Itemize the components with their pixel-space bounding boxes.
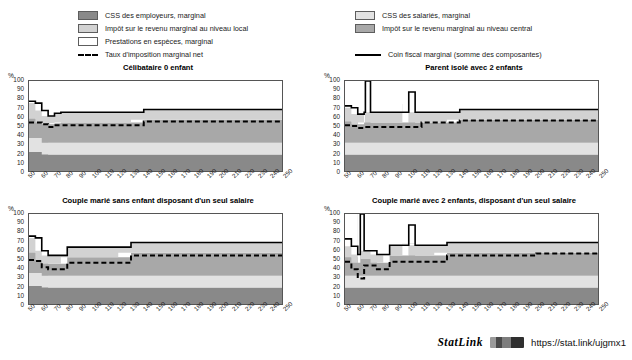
- y-axis-tick: 40: [17, 265, 24, 271]
- chart-legend: CSS des employeurs, marginal Impôt sur l…: [0, 10, 632, 66]
- y-axis-tick: 10: [17, 293, 24, 299]
- legend-solid-line-icon: [355, 54, 381, 56]
- chart-panel-celibataire-0-enfant: Célibataire 0 enfant%1009080706050403020…: [0, 62, 316, 198]
- y-axis-tick: 40: [333, 132, 340, 138]
- series-canvas: [29, 214, 283, 305]
- figure-root: CSS des employeurs, marginal Impôt sur l…: [0, 0, 632, 360]
- legend-swatch-central-tax: [355, 24, 375, 33]
- legend-dashed-line-icon: [78, 54, 98, 56]
- plot-frame: [344, 213, 599, 305]
- y-axis-tick: 30: [17, 274, 24, 280]
- area-band-0: [345, 288, 599, 305]
- legend-label-marginal-wedge: Coin fiscal marginal (somme des composan…: [388, 50, 542, 59]
- y-axis-tick: 90: [333, 86, 340, 92]
- y-axis-tick: 90: [17, 86, 24, 92]
- y-axis-tick: 10: [17, 160, 24, 166]
- x-axis-tick: 70: [53, 303, 62, 312]
- area-band-0: [29, 152, 283, 172]
- chart-panel-parent-isole-2-enfants: Parent isolé avec 2 enfants%100908070605…: [316, 62, 632, 198]
- statlink-url-link[interactable]: https://stat.link/ujgmx1: [531, 337, 626, 348]
- y-axis-tick: 80: [333, 95, 340, 101]
- legend-item-central-tax: Impôt sur le revenu marginal au niveau c…: [355, 23, 542, 34]
- statlink-barcode-logo-icon: [490, 337, 524, 348]
- y-axis-tick: 40: [17, 132, 24, 138]
- y-axis-tick: 100: [13, 77, 24, 83]
- y-axis-tick: 80: [17, 228, 24, 234]
- line-series-1: [345, 81, 599, 114]
- y-axis-tick: 70: [17, 105, 24, 111]
- chart-title-couple-marie-sans-enfant-un-salaire: Couple marié sans enfant disposant d'un …: [0, 195, 316, 206]
- x-axis-tick: 70: [369, 170, 378, 179]
- legend-column-right: CSS des salariés, marginal Impôt sur le …: [355, 10, 542, 62]
- legend-swatch-local-tax: [78, 24, 98, 33]
- y-axis-tick: 40: [333, 265, 340, 271]
- y-axis-tick: 0: [20, 302, 24, 308]
- y-axis-tick: 0: [20, 169, 24, 175]
- y-axis-tick: 60: [333, 247, 340, 253]
- area-band-3: [345, 81, 599, 124]
- y-axis-tick: 70: [17, 238, 24, 244]
- y-axis-celibataire-0-enfant: 1009080706050403020100: [8, 80, 24, 172]
- legend-item-local-tax: Impôt sur le revenu marginal au niveau l…: [78, 23, 248, 34]
- x-axis-tick: 250: [282, 168, 294, 180]
- y-axis-tick: 20: [333, 284, 340, 290]
- chart-title-couple-marie-2-enfants-un-salaire: Couple marié avec 2 enfants, disposant d…: [316, 195, 632, 206]
- y-axis-tick: 0: [336, 302, 340, 308]
- legend-swatch-employee-ssc: [355, 11, 375, 20]
- y-axis-tick: 0: [336, 169, 340, 175]
- figure-footer: StatLink https://stat.link/ujgmx1: [0, 336, 632, 354]
- legend-label-central-tax: Impôt sur le revenu marginal au niveau c…: [382, 24, 532, 33]
- statlink-row[interactable]: StatLink https://stat.link/ujgmx1: [437, 336, 626, 348]
- chart-title-celibataire-0-enfant: Célibataire 0 enfant: [0, 62, 316, 73]
- y-axis-parent-isole-2-enfants: 1009080706050403020100: [324, 80, 340, 172]
- plot-area-couple-marie-sans-enfant-un-salaire: [28, 213, 283, 305]
- statlink-label: StatLink: [437, 336, 483, 348]
- plot-frame: [344, 80, 599, 172]
- x-axis-tick: 70: [53, 170, 62, 179]
- x-axis-couple-marie-2-enfants-un-salaire: 5060708090100110120130140150160170180190…: [344, 308, 599, 330]
- y-axis-couple-marie-sans-enfant-un-salaire: 1009080706050403020100: [8, 213, 24, 305]
- y-axis-tick: 30: [17, 141, 24, 147]
- y-axis-tick: 50: [17, 123, 24, 129]
- legend-item-cash-benefits: Prestations en espèces, marginal: [78, 36, 248, 47]
- y-axis-tick: 60: [333, 114, 340, 120]
- x-axis-couple-marie-sans-enfant-un-salaire: 5060708090100110120130140150160170180190…: [28, 308, 283, 330]
- legend-label-employee-ssc: CSS des salariés, marginal: [382, 11, 470, 20]
- area-band-1: [345, 276, 599, 288]
- y-axis-tick: 60: [17, 114, 24, 120]
- plot-area-celibataire-0-enfant: [28, 80, 283, 172]
- series-canvas: [345, 81, 599, 172]
- y-axis-tick: 20: [17, 151, 24, 157]
- y-axis-tick: 50: [17, 256, 24, 262]
- x-axis-parent-isole-2-enfants: 5060708090100110120130140150160170180190…: [344, 175, 599, 197]
- chart-title-parent-isole-2-enfants: Parent isolé avec 2 enfants: [316, 62, 632, 73]
- chart-panel-couple-marie-2-enfants-un-salaire: Couple marié avec 2 enfants, disposant d…: [316, 195, 632, 331]
- area-band-0: [345, 155, 599, 172]
- y-axis-tick: 60: [17, 247, 24, 253]
- series-canvas: [29, 81, 283, 172]
- y-axis-tick: 10: [333, 160, 340, 166]
- legend-item-net-marginal-rate: Taux d'imposition marginal net: [78, 49, 248, 60]
- plot-frame: [28, 80, 283, 172]
- y-axis-tick: 90: [17, 219, 24, 225]
- legend-label-cash-benefits: Prestations en espèces, marginal: [105, 37, 213, 46]
- y-axis-tick: 50: [333, 256, 340, 262]
- y-axis-tick: 30: [333, 274, 340, 280]
- chart-panel-couple-marie-sans-enfant-un-salaire: Couple marié sans enfant disposant d'un …: [0, 195, 316, 331]
- plot-area-parent-isole-2-enfants: [344, 80, 599, 172]
- y-axis-tick: 30: [333, 141, 340, 147]
- x-axis-celibataire-0-enfant: 5060708090100110120130140150160170180190…: [28, 175, 283, 197]
- legend-spacer: [355, 36, 542, 47]
- legend-label-net-marginal-rate: Taux d'imposition marginal net: [105, 50, 203, 59]
- legend-swatch-employer-ssc: [78, 11, 98, 20]
- y-axis-tick: 100: [329, 210, 340, 216]
- area-band-1: [345, 143, 599, 155]
- y-axis-tick: 50: [333, 123, 340, 129]
- legend-label-employer-ssc: CSS des employeurs, marginal: [105, 11, 206, 20]
- y-axis-tick: 90: [333, 219, 340, 225]
- x-axis-tick: 250: [598, 168, 610, 180]
- legend-item-employee-ssc: CSS des salariés, marginal: [355, 10, 542, 21]
- plot-frame: [28, 213, 283, 305]
- x-axis-tick: 250: [282, 301, 294, 313]
- y-axis-tick: 70: [333, 238, 340, 244]
